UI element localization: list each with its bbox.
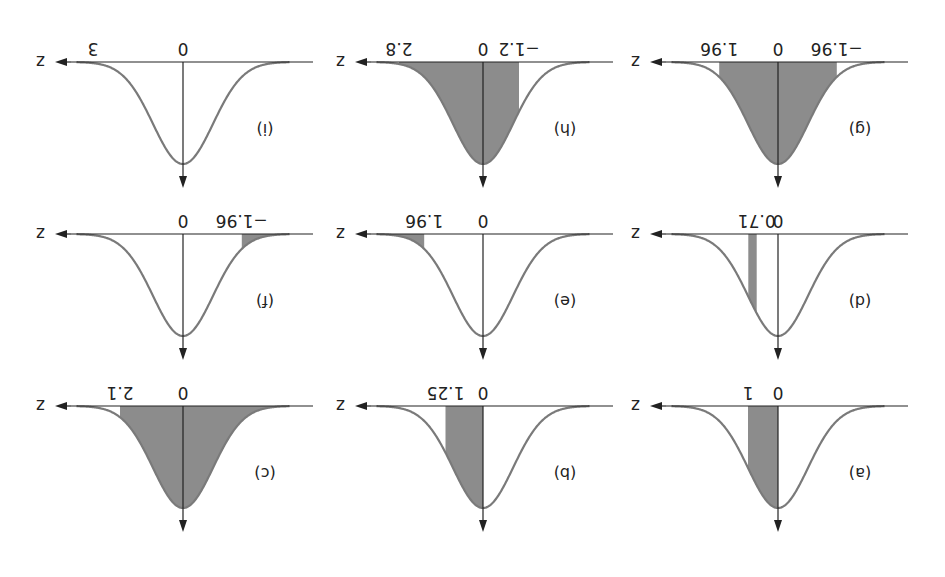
panel-label: (e) (554, 292, 576, 311)
panel-label: (h) (554, 120, 577, 139)
panel-f: z−1.960(f) (36, 211, 313, 360)
panel-c: z02.1(c) (36, 383, 313, 532)
tick-label: 0 (773, 39, 784, 59)
tick-label: 2.8 (385, 39, 412, 59)
z-axis-label: z (336, 396, 345, 416)
tick-label: 2.1 (106, 383, 133, 403)
arrow-up-icon (479, 348, 487, 360)
panel-b: z01.25(b) (336, 383, 613, 532)
tick-label: 0 (478, 211, 489, 231)
tick-label: 0 (773, 383, 784, 403)
shaded-region (446, 406, 484, 508)
z-axis-label: z (631, 396, 640, 416)
z-axis-label: z (631, 52, 640, 72)
z-axis-label: z (336, 224, 345, 244)
z-axis-label: z (631, 224, 640, 244)
panel-label: (f) (256, 292, 274, 311)
panel-a: z01(a) (631, 383, 908, 532)
shaded-region (748, 406, 778, 508)
tick-label: 0 (178, 39, 189, 59)
panel-h: z−1.202.8(h) (336, 39, 613, 188)
z-axis-label: z (36, 396, 45, 416)
tick-label: −1.96 (216, 211, 268, 231)
tick-label: −1.2 (498, 39, 539, 59)
tick-label: 1.96 (405, 211, 443, 231)
arrow-up-icon (479, 176, 487, 188)
tick-label: 0 (178, 211, 189, 231)
z-axis-label: z (336, 52, 345, 72)
arrow-up-icon (179, 176, 187, 188)
panel-label: (a) (849, 464, 871, 483)
tick-label: 0 (178, 383, 189, 403)
arrow-up-icon (179, 520, 187, 532)
arrow-up-icon (179, 348, 187, 360)
chart-stage: z01(a)z01.25(b)z02.1(c)z00.71(d)z01.96(e… (0, 0, 945, 577)
tick-label: 1.25 (427, 383, 465, 403)
panel-label: (i) (257, 120, 274, 139)
panel-d: z00.71(d) (631, 211, 908, 360)
tick-label: 0.71 (738, 211, 776, 231)
panel-i: z03(i) (36, 39, 313, 188)
tick-label: 3 (88, 39, 99, 59)
panel-label: (c) (254, 464, 275, 483)
panel-g: z−1.9601.96(g) (631, 39, 908, 188)
arrow-up-icon (774, 520, 782, 532)
panel-e: z01.96(e) (336, 211, 613, 360)
z-axis-label: z (36, 52, 45, 72)
tick-label: 1 (743, 383, 754, 403)
arrow-up-icon (774, 176, 782, 188)
normal-curves-figure: z01(a)z01.25(b)z02.1(c)z00.71(d)z01.96(e… (0, 0, 945, 577)
tick-label: 0 (478, 383, 489, 403)
z-axis-label: z (36, 224, 45, 244)
shaded-region (120, 406, 290, 508)
tick-label: 1.96 (700, 39, 738, 59)
arrow-up-icon (774, 348, 782, 360)
panel-label: (d) (849, 292, 872, 311)
tick-label: 0 (478, 39, 489, 59)
tick-label: −1.96 (811, 39, 863, 59)
panel-label: (g) (849, 120, 872, 139)
panel-label: (b) (554, 464, 577, 483)
arrow-up-icon (479, 520, 487, 532)
